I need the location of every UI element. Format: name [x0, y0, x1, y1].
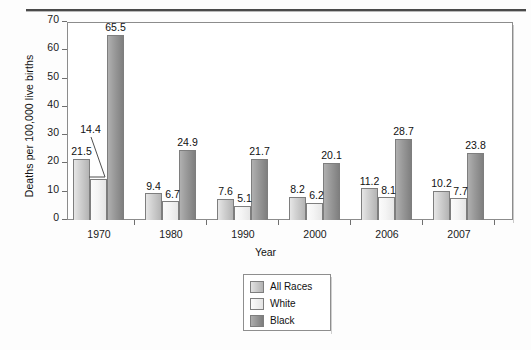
- swatch-black-icon: [250, 315, 264, 327]
- bar-white-2007[interactable]: [450, 198, 467, 220]
- x-axis-separator-3: [278, 220, 279, 225]
- value-label-black-1980: 24.9: [169, 137, 206, 148]
- x-tick-label-1980: 1980: [146, 228, 196, 240]
- x-axis-separator-2: [206, 220, 207, 225]
- swatch-all-races-icon: [250, 281, 264, 293]
- legend-item-all-races[interactable]: All Races: [250, 280, 312, 293]
- value-label-black-2007: 23.8: [457, 140, 494, 151]
- value-label-white-2000: 6.2: [298, 190, 335, 201]
- value-label-black-1990: 21.7: [241, 146, 278, 157]
- bar-black-1980[interactable]: [179, 150, 196, 220]
- bar-white-2006[interactable]: [378, 197, 395, 220]
- legend-item-black[interactable]: Black: [250, 314, 294, 327]
- value-label-white-1970: 14.4: [72, 124, 109, 135]
- value-label-white-2006: 8.1: [370, 185, 407, 196]
- value-label-black-2000: 20.1: [313, 150, 350, 161]
- chart-legend: All Races White Black: [243, 274, 331, 331]
- value-label-white-1990: 5.1: [226, 193, 263, 204]
- bar-white-1990[interactable]: [234, 206, 251, 220]
- x-tick-label-2000: 2000: [290, 228, 340, 240]
- x-tick-label-1990: 1990: [218, 228, 268, 240]
- x-axis-separator-4: [350, 220, 351, 225]
- x-tick-label-2006: 2006: [362, 228, 412, 240]
- legend-label-all-races: All Races: [270, 282, 312, 292]
- bar-white-2000[interactable]: [306, 203, 323, 221]
- bar-white-1980[interactable]: [162, 201, 179, 220]
- x-tick-label-2007: 2007: [434, 228, 484, 240]
- legend-item-white[interactable]: White: [250, 297, 296, 310]
- x-axis-separator-1: [134, 220, 135, 225]
- value-label-white-2007: 7.7: [442, 186, 479, 197]
- bar-black-2006[interactable]: [395, 139, 412, 220]
- x-tick-label-1970: 1970: [74, 228, 124, 240]
- chart-page: Deaths per 100,000 live births 70 60 50 …: [0, 0, 531, 350]
- bar-white-1970[interactable]: [90, 179, 107, 220]
- legend-label-black: Black: [270, 316, 294, 326]
- value-label-black-2006: 28.7: [385, 126, 422, 137]
- swatch-white-icon: [250, 298, 264, 310]
- bar-black-1990[interactable]: [251, 159, 268, 220]
- bar-black-1970[interactable]: [107, 35, 124, 220]
- x-axis-separator-5: [422, 220, 423, 225]
- leader-line-white-1970: [88, 135, 114, 181]
- legend-label-white: White: [270, 299, 296, 309]
- x-axis-separator-6: [494, 220, 495, 225]
- x-axis-title: Year: [0, 246, 531, 258]
- value-label-white-1980: 6.7: [154, 189, 191, 200]
- value-label-black-1970: 65.5: [97, 22, 134, 33]
